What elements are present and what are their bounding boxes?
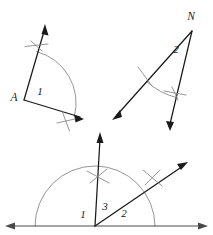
arrowhead-a-upper xyxy=(42,24,49,36)
arrowhead-a-lower xyxy=(74,115,84,123)
construction-arc-n-main xyxy=(146,81,176,97)
arrowhead-baseline-right xyxy=(198,223,208,230)
arrowhead-n-down xyxy=(166,121,174,131)
angle-label-bottom-3: 3 xyxy=(101,200,108,212)
arrowhead-baseline-left xyxy=(5,223,15,230)
angle-constructions-diagram: A 1 N 2 xyxy=(0,0,213,235)
vertex-label-n: N xyxy=(186,10,196,22)
ray-n-left xyxy=(117,31,192,115)
angle-label-bottom-2: 2 xyxy=(121,207,127,219)
geometry-figure-container: A 1 N 2 xyxy=(0,0,213,235)
figure-angle-bottom: 1 3 2 xyxy=(5,132,208,230)
arrowhead-vertical xyxy=(97,132,104,143)
vertex-label-a: A xyxy=(9,91,18,103)
angle-label-n-2: 2 xyxy=(173,43,179,55)
figure-angle-a: A 1 xyxy=(9,24,84,131)
ray-vertical xyxy=(95,139,100,226)
ray-diagonal xyxy=(95,166,183,226)
ray-a-lower xyxy=(24,100,80,117)
angle-label-a-1: 1 xyxy=(37,85,43,97)
figure-angle-n: N 2 xyxy=(112,10,196,131)
angle-label-bottom-1: 1 xyxy=(80,208,86,220)
